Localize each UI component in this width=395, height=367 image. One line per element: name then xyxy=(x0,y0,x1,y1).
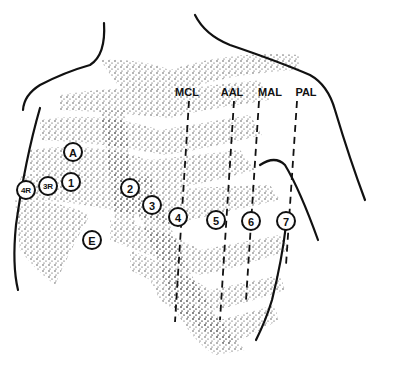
reference-line-label: AAL xyxy=(221,86,244,98)
electrode-label: 2 xyxy=(127,183,133,195)
electrode-e: E xyxy=(83,231,101,249)
electrode-label: A xyxy=(69,147,77,159)
electrode-label: 7 xyxy=(283,216,289,228)
electrode-3r: 3R xyxy=(39,177,57,195)
electrode-label: 3 xyxy=(149,200,155,212)
electrode-label: 5 xyxy=(213,215,219,227)
electrode-6: 6 xyxy=(242,212,260,230)
electrode-1: 1 xyxy=(62,173,80,191)
reference-line-label: PAL xyxy=(295,86,316,98)
electrode-4r: 4R xyxy=(17,181,35,199)
electrode-label: 4 xyxy=(175,212,182,224)
electrode-7: 7 xyxy=(277,212,295,230)
reference-line-label: MAL xyxy=(258,86,282,98)
electrode-3: 3 xyxy=(143,196,161,214)
electrode-label: 1 xyxy=(68,177,74,189)
reference-line-label: MCL xyxy=(175,86,199,98)
electrode-label: E xyxy=(88,235,95,247)
electrode-4: 4 xyxy=(169,208,187,226)
electrode-label: 4R xyxy=(21,186,31,195)
chest-electrode-diagram: MCLAALMALPAL A13R4R234567E xyxy=(0,0,395,367)
electrode-5: 5 xyxy=(207,211,225,229)
electrode-a: A xyxy=(64,143,82,161)
electrode-label: 6 xyxy=(248,216,254,228)
electrode-2: 2 xyxy=(121,179,139,197)
electrode-label: 3R xyxy=(43,182,53,191)
